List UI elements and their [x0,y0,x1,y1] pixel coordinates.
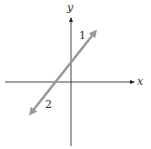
y-axis-label: y [67,2,73,13]
diagonal-line [31,32,95,113]
x-axis-label: x [137,76,143,87]
line-label-2: 2 [45,99,52,110]
coordinate-plane [0,0,151,149]
line-label-1: 1 [79,30,86,41]
